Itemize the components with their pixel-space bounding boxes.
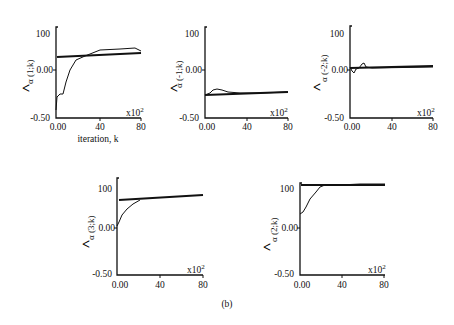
x-tick-40: 40: [387, 122, 397, 132]
svg-text:α (-2;k): α (-2;k): [319, 55, 329, 82]
panel-alpha-3: 100 0.00 -0.50 0.00 40 80 x102 α (3;k) <: [82, 178, 208, 290]
y-tick-zero: 0.00: [281, 223, 298, 233]
figure-canvas: 100 0.00 -0.50 0.00 40 80 x102 iteration…: [0, 0, 454, 325]
y-tick-bottom: -0.50: [179, 113, 199, 123]
x-tick-0: 0.00: [344, 122, 361, 132]
y-tick-top: 100: [98, 184, 113, 194]
x-tick-80: 80: [198, 280, 208, 290]
y-tick-zero: 0.00: [331, 65, 348, 75]
x-multiplier: x102: [270, 106, 288, 118]
panel-alpha-minus-1: 100 0.00 -0.50 0.00 40 80 x102 α (-1;k) …: [170, 27, 293, 132]
y-tick-top: 100: [280, 184, 295, 194]
hat-icon: <: [22, 81, 30, 96]
y-tick-top: 100: [36, 29, 51, 39]
x-tick-0: 0.00: [294, 280, 311, 290]
panel-alpha-1: 100 0.00 -0.50 0.00 40 80 x102 iteration…: [22, 27, 146, 144]
x-tick-0: 0.00: [112, 280, 129, 290]
y-axis-label: α (-2;k): [319, 55, 329, 82]
y-tick-zero: 0.00: [98, 223, 115, 233]
x-tick-40: 40: [155, 280, 165, 290]
y-axis-label: α (2;k): [269, 218, 279, 242]
y-tick-top: 100: [185, 29, 200, 39]
x-multiplier: x102: [187, 263, 205, 275]
series-estimate: [117, 200, 140, 226]
x-tick-40: 40: [95, 122, 105, 132]
figure-caption: (b): [221, 299, 232, 310]
x-tick-40: 40: [242, 122, 252, 132]
x-multiplier: x102: [126, 106, 144, 118]
series-true: [57, 53, 141, 57]
y-tick-bottom: -0.50: [324, 113, 344, 123]
hat-icon: <: [82, 237, 90, 252]
y-tick-bottom: -0.50: [92, 269, 112, 279]
svg-text:α (2;k): α (2;k): [269, 218, 279, 242]
x-tick-0: 0.00: [50, 122, 67, 132]
y-tick-top: 100: [330, 29, 345, 39]
y-tick-bottom: -0.50: [274, 269, 294, 279]
x-tick-80: 80: [136, 122, 146, 132]
hat-icon: <: [170, 81, 178, 96]
x-tick-80: 80: [428, 122, 438, 132]
series-estimate: [300, 184, 385, 214]
x-tick-80: 80: [283, 122, 293, 132]
x-multiplier: x102: [368, 263, 386, 275]
y-tick-bottom: -0.50: [30, 113, 50, 123]
x-axis-label: iteration, k: [77, 134, 118, 144]
panel-alpha-2: 100 0.00 -0.50 0.00 40 80 x102 α (2;k) <: [263, 183, 389, 290]
x-multiplier: x102: [417, 106, 435, 118]
x-tick-40: 40: [337, 280, 347, 290]
x-tick-80: 80: [379, 280, 389, 290]
panel-alpha-minus-2: 100 0.00 -0.50 0.00 40 80 x102 α (-2;k) …: [313, 26, 438, 132]
hat-icon: <: [313, 80, 321, 95]
series-true: [119, 195, 203, 200]
x-tick-0: 0.00: [199, 122, 216, 132]
hat-icon: <: [263, 240, 271, 255]
y-tick-zero: 0.00: [36, 65, 53, 75]
y-tick-zero: 0.00: [185, 65, 202, 75]
